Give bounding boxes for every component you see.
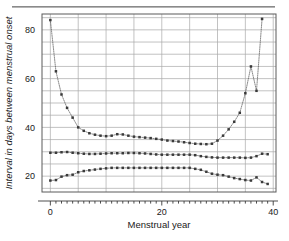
grid-layer [42,14,276,192]
y-tick-label: 40 [25,123,35,133]
x-tick-label: 40 [268,207,278,217]
x-tick-label: 20 [157,207,167,217]
y-tick-label: 20 [25,171,35,181]
y-axis: 20406080 [25,25,35,181]
menstrual-interval-chart: 02040 20406080 Menstrual year Interval i… [0,0,289,241]
figure-container: 02040 20406080 Menstrual year Interval i… [0,0,289,241]
x-axis: 02040 [38,201,278,217]
x-axis-title: Menstrual year [128,219,191,230]
y-tick-label: 60 [25,74,35,84]
data-series-layer [49,18,269,186]
y-tick-label: 80 [25,25,35,35]
top-horizontal-rule [12,6,275,8]
y-axis-title: Interval in days between menstrual onset [3,16,14,189]
x-tick-label: 0 [48,207,53,217]
